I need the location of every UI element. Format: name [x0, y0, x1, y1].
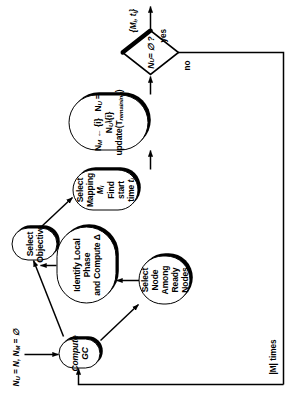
initial-condition-label: NU = N, NM = ∅ [10, 329, 20, 386]
identify-local-phase-node[interactable]: Identify Local Phase and Compute Δ [56, 226, 116, 303]
select-objective-line-1: Select [24, 225, 34, 262]
identify-local-phase-line-1: Identify Local Phase [71, 230, 91, 299]
select-objective-node[interactable]: Select Objective [11, 227, 57, 260]
branch-no-label: no [182, 60, 191, 70]
select-mapping-line-2: Find start time ti [105, 172, 136, 206]
edge-decision-no-to-feedback [174, 52, 283, 384]
select-node-line-1: Select Node [139, 259, 159, 300]
edge-compute-gc-to-select-node [100, 304, 138, 340]
select-node-line-2: Among Ready [159, 259, 179, 300]
edge-select-objective-to-select-mapping [40, 197, 72, 227]
flowchart-canvas: Compute GC Select Node Among Ready Nodes… [0, 0, 301, 408]
edge-feedback-to-compute-gc [78, 368, 283, 384]
compute-gc-node[interactable]: Compute GC [58, 338, 100, 368]
select-mapping-node[interactable]: Select Mapping Mi Find start time ti [72, 169, 138, 210]
select-objective-line-2: Objective [34, 225, 44, 262]
select-node-among-ready-nodes-node[interactable]: Select Node Among Ready Nodes [138, 255, 190, 304]
decision-diamond-shape [120, 28, 180, 76]
select-mapping-line-1: Select Mapping Mi [74, 172, 105, 206]
select-node-line-3: Nodes [179, 259, 189, 300]
compute-gc-label: Compute GC [69, 335, 89, 371]
branch-yes-label: yes [158, 28, 167, 42]
update-sets-line-2: update(Tremaining) [113, 89, 124, 155]
update-sets-node[interactable]: NM ← {i} NU = NU\{i} update(Tremaining) [68, 94, 148, 150]
empty-check-decision[interactable]: NU = ∅ ? [120, 28, 180, 76]
identify-local-phase-line-2: and Compute Δ [91, 230, 101, 299]
loop-count-label: |M| times [268, 339, 277, 374]
figure-rotation-wrapper: Compute GC Select Node Among Ready Nodes… [0, 0, 301, 408]
update-sets-line-1: NM ← {i} NU = NU\{i} [92, 89, 113, 155]
output-label: {Mi, ti} [128, 8, 137, 32]
